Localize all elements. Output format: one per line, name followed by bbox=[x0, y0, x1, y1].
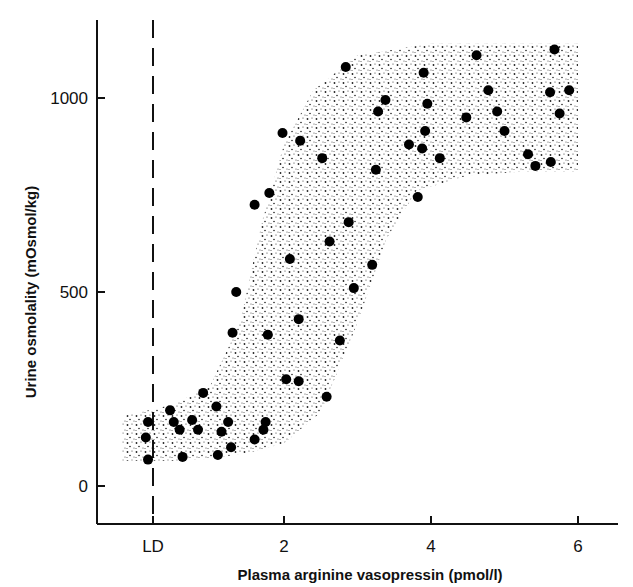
data-point bbox=[187, 415, 197, 425]
data-point bbox=[264, 188, 274, 198]
x-tick-label: 2 bbox=[279, 537, 288, 556]
data-point bbox=[546, 157, 556, 167]
data-point bbox=[404, 140, 414, 150]
data-point bbox=[263, 330, 273, 340]
data-point bbox=[530, 161, 540, 171]
scatter-chart: 05001000 LD246 Plasma arginine vasopress… bbox=[0, 0, 633, 587]
data-point bbox=[281, 374, 291, 384]
data-point bbox=[341, 62, 351, 72]
data-point bbox=[335, 336, 345, 346]
data-point bbox=[492, 107, 502, 117]
y-axis: 05001000 bbox=[50, 20, 105, 524]
data-point bbox=[217, 427, 227, 437]
data-point bbox=[294, 314, 304, 324]
data-point bbox=[564, 85, 574, 95]
y-axis-title: Urine osmolality (mOsmol/kg) bbox=[22, 186, 39, 399]
data-point bbox=[250, 200, 260, 210]
x-axis-title: Plasma arginine vasopressin (pmol/l) bbox=[237, 566, 502, 583]
data-point bbox=[349, 283, 359, 293]
data-point bbox=[143, 455, 153, 465]
data-point bbox=[211, 401, 221, 411]
data-point bbox=[223, 417, 233, 427]
data-point bbox=[413, 192, 423, 202]
y-tick-label: 0 bbox=[79, 477, 88, 496]
data-point bbox=[325, 237, 335, 247]
data-point bbox=[461, 112, 471, 122]
x-tick-label: LD bbox=[142, 537, 164, 556]
data-point bbox=[193, 425, 203, 435]
data-point bbox=[322, 392, 332, 402]
data-point bbox=[417, 143, 427, 153]
data-point bbox=[472, 50, 482, 60]
data-point bbox=[141, 433, 151, 443]
data-point bbox=[373, 107, 383, 117]
stippled-band-layer bbox=[122, 44, 578, 461]
data-point bbox=[250, 434, 260, 444]
x-tick-label: 6 bbox=[573, 537, 582, 556]
data-point bbox=[420, 126, 430, 136]
data-point bbox=[294, 376, 304, 386]
data-point bbox=[344, 217, 354, 227]
data-point bbox=[143, 417, 153, 427]
data-point bbox=[175, 425, 185, 435]
x-axis: LD246 bbox=[97, 516, 618, 556]
data-point bbox=[549, 45, 559, 55]
data-point bbox=[419, 68, 429, 78]
x-tick-label: 4 bbox=[426, 537, 435, 556]
data-point bbox=[226, 442, 236, 452]
data-point bbox=[545, 87, 555, 97]
data-point bbox=[285, 254, 295, 264]
data-point bbox=[228, 328, 238, 338]
y-tick-label: 500 bbox=[60, 283, 88, 302]
data-point bbox=[523, 149, 533, 159]
data-point bbox=[483, 85, 493, 95]
data-point bbox=[367, 260, 377, 270]
data-point bbox=[555, 109, 565, 119]
data-point bbox=[380, 95, 390, 105]
data-point bbox=[371, 165, 381, 175]
data-point bbox=[165, 405, 175, 415]
data-point bbox=[317, 153, 327, 163]
data-point bbox=[500, 126, 510, 136]
data-point bbox=[231, 287, 241, 297]
data-point bbox=[178, 452, 188, 462]
normal-range-band bbox=[122, 44, 578, 461]
data-point bbox=[213, 450, 223, 460]
y-tick-label: 1000 bbox=[50, 89, 88, 108]
data-point bbox=[198, 388, 208, 398]
data-point bbox=[422, 99, 432, 109]
data-point bbox=[295, 136, 305, 146]
data-point bbox=[278, 128, 288, 138]
data-point bbox=[261, 417, 271, 427]
data-point bbox=[435, 153, 445, 163]
